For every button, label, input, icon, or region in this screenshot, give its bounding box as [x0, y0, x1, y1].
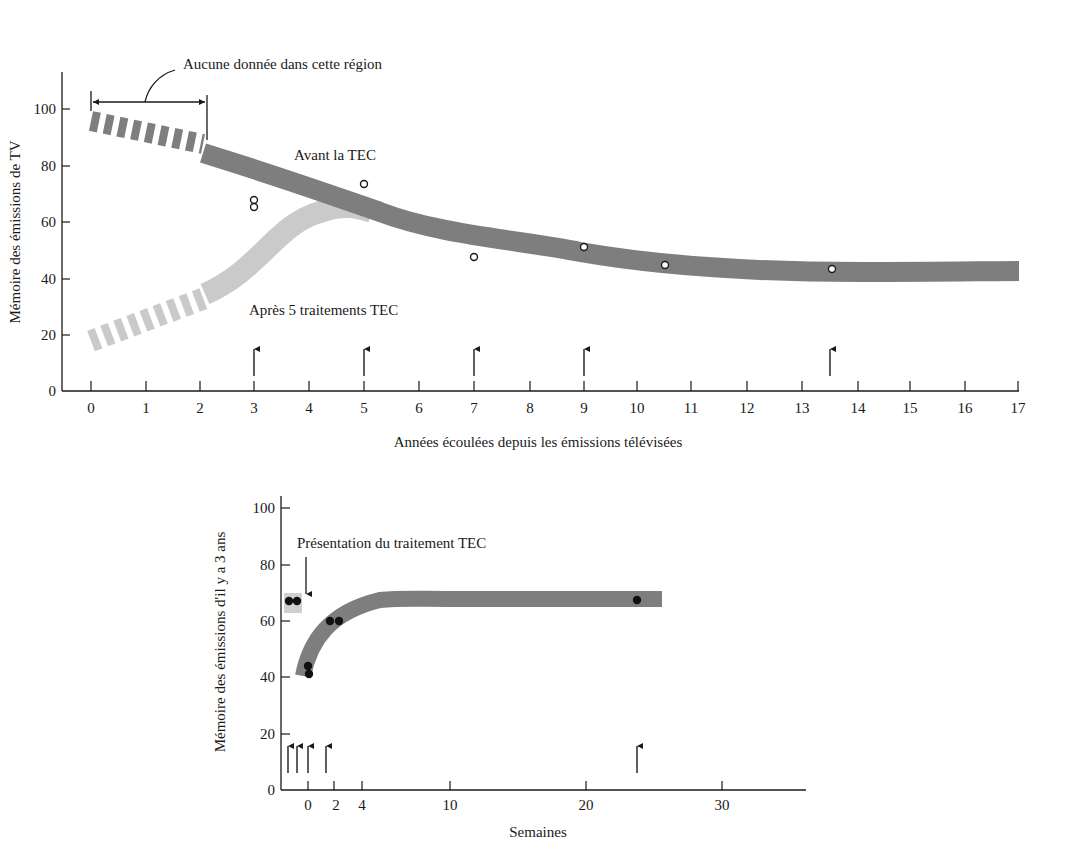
svg-text:11: 11: [684, 400, 698, 416]
svg-text:15: 15: [903, 400, 918, 416]
svg-text:30: 30: [715, 797, 730, 813]
top-chart: Mémoire des émissions de TV 0 20 40 60 8…: [7, 56, 1026, 450]
bottom-x-tick-labels: 0 2 4 10 20 30: [304, 797, 729, 813]
bottom-data-points: [285, 596, 641, 678]
svg-text:80: 80: [260, 557, 275, 573]
svg-text:14: 14: [851, 400, 867, 416]
no-data-label: Aucune donnée dans cette région: [183, 56, 383, 72]
before-ect-band: [91, 121, 1019, 272]
svg-text:1: 1: [142, 400, 150, 416]
svg-text:12: 12: [740, 400, 755, 416]
top-x-axis-title: Années écoulées depuis les émissions tél…: [394, 434, 683, 450]
bottom-treatment-arrows: [288, 746, 637, 773]
svg-text:0: 0: [268, 782, 276, 798]
bottom-x-ticks: [308, 781, 722, 790]
svg-text:2: 2: [332, 797, 340, 813]
before-ect-label: Avant la TEC: [294, 147, 376, 163]
svg-text:20: 20: [41, 327, 56, 343]
svg-text:40: 40: [41, 271, 56, 287]
svg-text:4: 4: [305, 400, 313, 416]
after-ect-label: Après 5 traitements TEC: [249, 302, 398, 318]
svg-text:5: 5: [360, 400, 368, 416]
bottom-x-axis-title: Semaines: [509, 824, 567, 840]
svg-text:60: 60: [41, 214, 56, 230]
top-y-axis-title: Mémoire des émissions de TV: [7, 140, 23, 323]
svg-text:0: 0: [87, 400, 95, 416]
svg-text:17: 17: [1011, 400, 1027, 416]
svg-text:8: 8: [526, 400, 534, 416]
svg-text:0: 0: [304, 797, 312, 813]
svg-text:3: 3: [250, 400, 258, 416]
svg-text:13: 13: [795, 400, 810, 416]
svg-text:60: 60: [260, 613, 275, 629]
top-x-ticks: [91, 381, 1018, 391]
svg-text:20: 20: [260, 726, 275, 742]
bottom-chart: Mémoire des émissions d'il y a 3 ans 0 2…: [212, 496, 806, 840]
svg-text:7: 7: [470, 400, 478, 416]
bottom-y-tick-labels: 0 20 40 60 80 100: [253, 500, 276, 798]
svg-text:2: 2: [196, 400, 204, 416]
svg-text:80: 80: [41, 158, 56, 174]
svg-text:20: 20: [579, 797, 594, 813]
svg-text:9: 9: [580, 400, 588, 416]
svg-text:100: 100: [34, 101, 57, 117]
after-ect-band: [91, 207, 372, 341]
treatment-label: Présentation du traitement TEC: [297, 535, 486, 551]
svg-text:100: 100: [253, 500, 276, 516]
svg-text:0: 0: [49, 383, 57, 399]
svg-text:40: 40: [260, 669, 275, 685]
top-y-ticks: [62, 109, 70, 335]
recovery-band: [303, 599, 662, 676]
svg-text:4: 4: [358, 797, 366, 813]
top-treatment-arrows: [254, 349, 830, 376]
figure: Mémoire des émissions de TV 0 20 40 60 8…: [0, 0, 1080, 848]
bottom-y-axis-title: Mémoire des émissions d'il y a 3 ans: [212, 532, 228, 753]
top-y-tick-labels: 0 20 40 60 80 100: [34, 101, 57, 399]
svg-text:10: 10: [630, 400, 645, 416]
svg-text:16: 16: [958, 400, 974, 416]
bottom-y-ticks: [281, 508, 290, 734]
svg-text:10: 10: [443, 797, 458, 813]
top-x-tick-labels: 0 1 2 3 4 5 6 7 8 9 10 11 12 13 14 15 16…: [87, 400, 1026, 416]
svg-text:6: 6: [415, 400, 423, 416]
